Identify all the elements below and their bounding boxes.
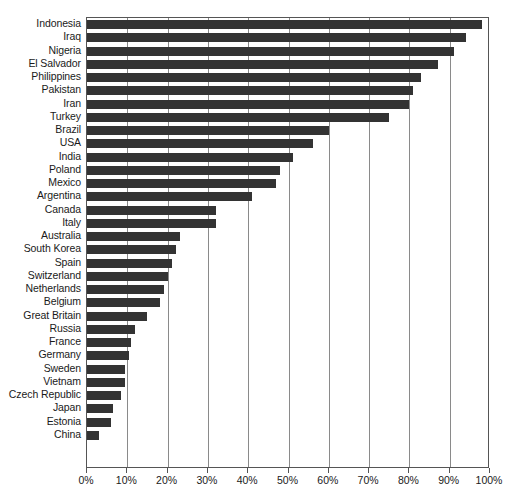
bar [87,100,409,109]
category-label: Estonia [0,415,84,428]
category-label: France [0,335,84,348]
bar [87,20,482,29]
category-label: Mexico [0,176,84,189]
x-tick-label: 0% [78,474,93,486]
x-tick [126,468,127,473]
x-tick-label: 60% [317,474,338,486]
category-label: USA [0,136,84,149]
bar-row [87,217,488,230]
bar-row [87,204,488,217]
bar-chart: IndonesiaIraqNigeriaEl SalvadorPhilippin… [0,0,521,497]
bar-row [87,402,488,415]
plot-area [86,17,489,468]
x-tick [207,468,208,473]
category-label: Australia [0,229,84,242]
bar [87,60,438,69]
bar [87,404,113,413]
bar [87,153,293,162]
x-tick-label: 20% [156,474,177,486]
bar [87,47,454,56]
bar [87,113,389,122]
category-label: Philippines [0,70,84,83]
bar [87,206,216,215]
x-axis-tick-labels: 0%10%20%30%40%50%60%70%80%90%100% [0,474,521,494]
x-tick-label: 80% [398,474,419,486]
x-tick [328,468,329,473]
category-label: South Korea [0,242,84,255]
x-tick-label: 90% [438,474,459,486]
category-label: Japan [0,401,84,414]
bar [87,391,121,400]
bar [87,378,125,387]
category-label: Turkey [0,110,84,123]
category-label: Brazil [0,123,84,136]
category-label: Pakistan [0,83,84,96]
bar-row [87,164,488,177]
category-label: Netherlands [0,282,84,295]
bar [87,179,276,188]
bar [87,73,421,82]
category-label: Italy [0,216,84,229]
bar [87,325,135,334]
bar [87,126,329,135]
category-label: Spain [0,256,84,269]
bar [87,166,280,175]
bar-row [87,363,488,376]
bar [87,139,313,148]
bar-row [87,270,488,283]
bar-row [87,71,488,84]
bar [87,418,111,427]
bar [87,232,180,241]
x-tick [449,468,450,473]
bar [87,219,216,228]
bar [87,86,413,95]
x-tick [247,468,248,473]
bar-row [87,283,488,296]
bar [87,259,172,268]
bar [87,298,160,307]
category-label: Canada [0,203,84,216]
bar-row [87,151,488,164]
bar-row [87,190,488,203]
bar-row [87,257,488,270]
x-tick-label: 10% [116,474,137,486]
bar-row [87,416,488,429]
bar [87,351,129,360]
category-label: China [0,428,84,441]
bar-row [87,58,488,71]
bar [87,245,176,254]
category-label: Germany [0,348,84,361]
bar-row [87,111,488,124]
x-tick [288,468,289,473]
bar-row [87,389,488,402]
bar-row [87,349,488,362]
category-label: Iraq [0,30,84,43]
bar [87,192,252,201]
bar [87,285,164,294]
category-label: Nigeria [0,44,84,57]
x-tick-label: 40% [237,474,258,486]
x-tick [489,468,490,473]
bar-row [87,18,488,31]
bar-row [87,84,488,97]
x-tick [167,468,168,473]
category-label: Argentina [0,189,84,202]
category-label: Indonesia [0,17,84,30]
category-label: India [0,150,84,163]
bar-row [87,323,488,336]
category-label: Russia [0,322,84,335]
bar-row [87,243,488,256]
bar-series [87,18,488,467]
category-label: Iran [0,97,84,110]
bar [87,365,125,374]
bar-row [87,98,488,111]
bar-row [87,296,488,309]
bar-row [87,230,488,243]
category-label: Poland [0,163,84,176]
bar-row [87,310,488,323]
category-label: Belgium [0,295,84,308]
x-tick-label: 30% [196,474,217,486]
bar-row [87,137,488,150]
bar [87,338,131,347]
bar [87,312,147,321]
